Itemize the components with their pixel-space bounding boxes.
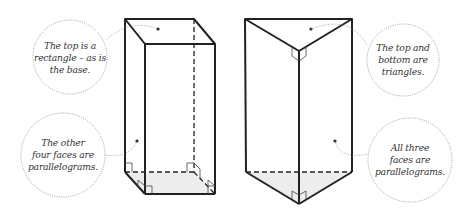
prism-diagram: The top is a rectangle – as is the base.… <box>0 0 473 215</box>
diagram-canvas <box>0 0 473 215</box>
callout-rectangle-faces: The other four faces are parallelograms. <box>18 137 108 173</box>
callout-rectangle-top: The top is a rectangle – as is the base. <box>30 40 110 76</box>
callout-triangle-top: The top and bottom are triangles. <box>363 42 443 78</box>
triangular-prism <box>245 19 368 204</box>
callout-triangle-faces: All three faces are parallelograms. <box>365 142 455 178</box>
rectangular-prism <box>106 19 215 194</box>
